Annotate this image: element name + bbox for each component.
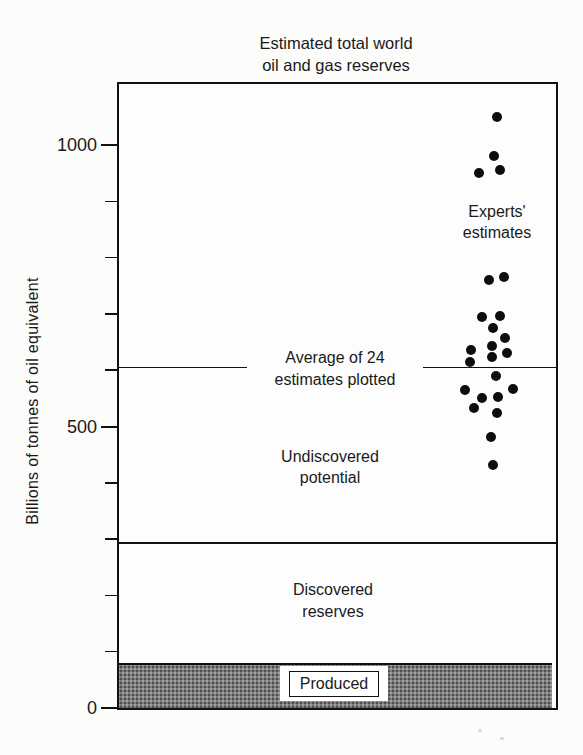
experts-estimates-label-line2: estimates — [432, 222, 562, 243]
y-axis-minor-tick — [105, 595, 117, 597]
estimate-dot — [492, 408, 502, 418]
estimate-dot — [487, 341, 497, 351]
scan-speck — [478, 729, 482, 732]
produced-label-frame: Produced — [289, 671, 379, 697]
discovered-reserves-label-line2: reserves — [263, 601, 403, 623]
produced-label-box: Produced — [280, 666, 388, 701]
chart-title-line1: Estimated total world — [160, 32, 512, 54]
y-axis-minor-tick — [105, 538, 117, 540]
discovered-reserves-boundary-line — [117, 542, 556, 544]
undiscovered-potential-label: Undiscovered potential — [260, 446, 400, 488]
y-axis-minor-tick — [105, 313, 117, 315]
estimate-dot — [469, 403, 479, 413]
estimate-dot — [477, 312, 487, 322]
estimate-dot — [488, 323, 498, 333]
experts-estimates-label-line1: Experts' — [432, 201, 562, 222]
y-axis-major-tick — [101, 144, 117, 146]
estimate-dot — [491, 371, 501, 381]
y-axis-label: Billions of tonnes of oil equivalent — [24, 221, 42, 581]
chart-title: Estimated total world oil and gas reserv… — [160, 32, 512, 76]
discovered-reserves-label-line1: Discovered — [263, 579, 403, 601]
chart-title-line2: oil and gas reserves — [160, 54, 512, 76]
average-line-label-line2: estimates plotted — [247, 369, 423, 391]
undiscovered-potential-label-line1: Undiscovered — [260, 446, 400, 467]
discovered-reserves-label: Discovered reserves — [263, 579, 403, 623]
y-axis-major-tick — [101, 426, 117, 428]
estimate-dot — [488, 460, 498, 470]
y-axis-minor-tick — [105, 201, 117, 203]
figure-page: { "title": { "line1": "Estimated total w… — [0, 0, 583, 755]
average-line-label: Average of 24 estimates plotted — [247, 346, 423, 392]
scan-speck — [500, 737, 504, 740]
y-axis-major-tick — [101, 707, 117, 709]
estimate-dot — [492, 112, 502, 122]
estimate-dot — [460, 385, 470, 395]
y-axis-minor-tick — [105, 651, 117, 653]
estimate-dot — [465, 357, 475, 367]
y-axis-tick-label: 500 — [37, 417, 97, 437]
experts-estimates-label: Experts' estimates — [432, 201, 562, 243]
undiscovered-potential-label-line2: potential — [260, 467, 400, 488]
y-axis-minor-tick — [105, 482, 117, 484]
y-axis-tick-label: 1000 — [37, 135, 97, 155]
produced-label: Produced — [300, 675, 369, 693]
y-axis-minor-tick — [105, 257, 117, 259]
y-axis-tick-label: 0 — [37, 698, 97, 718]
y-axis-minor-tick — [105, 369, 117, 371]
average-line-label-line1: Average of 24 — [247, 347, 423, 369]
